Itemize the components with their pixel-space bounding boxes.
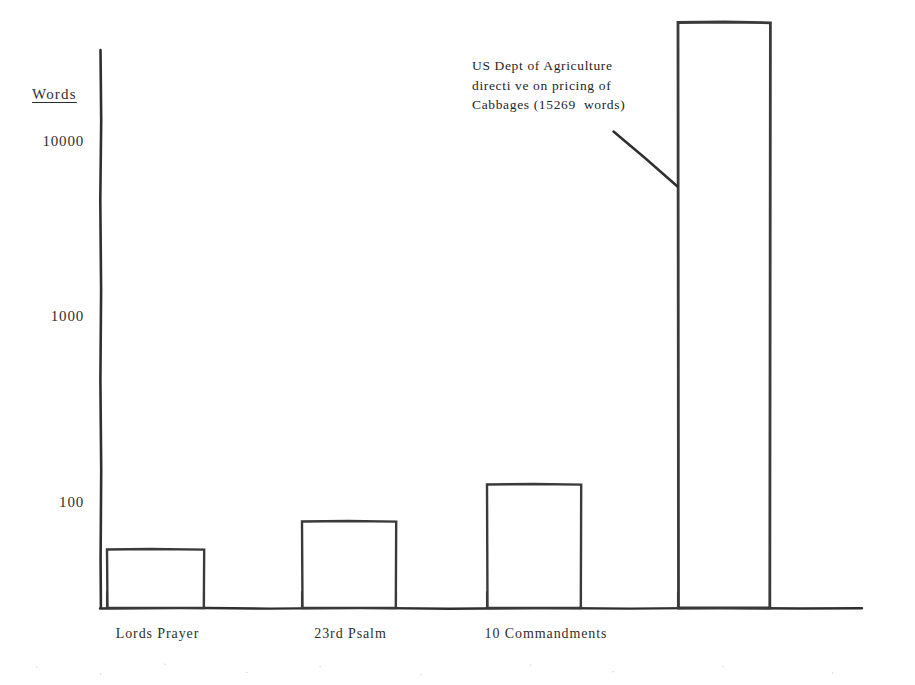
annotation-usda-cabbage-directive: US Dept of Agriculture directi ve on pri… xyxy=(472,56,697,115)
y-axis-tick-label-1000: 1000 xyxy=(18,308,84,325)
y-axis-title: Words xyxy=(32,86,77,103)
bar-23rd-psalm xyxy=(302,521,396,608)
chart-canvas xyxy=(0,0,915,685)
x-axis-label-lords-prayer: Lords Prayer xyxy=(95,626,220,642)
annotation-line-2: directi ve on pricing of xyxy=(472,76,697,96)
annotation-line-3: Cabbages (15269 words) xyxy=(472,95,697,115)
x-axis-ticks xyxy=(107,592,770,608)
annotation-line-1: US Dept of Agriculture xyxy=(472,56,697,76)
y-axis-line xyxy=(100,50,101,608)
x-axis-label-23rd-psalm: 23rd Psalm xyxy=(288,626,413,642)
bar-chart: Words 10000 1000 100 Lords Prayer 23rd P… xyxy=(0,0,915,685)
bar-10-commandments xyxy=(487,484,581,608)
x-axis-label-10-commandments: 10 Commandments xyxy=(466,626,626,642)
y-axis-tick-label-100: 100 xyxy=(18,494,84,511)
annotation-leader-line xyxy=(614,132,678,187)
y-axis-tick-label-10000: 10000 xyxy=(18,133,84,150)
bar-lords-prayer xyxy=(107,549,204,608)
